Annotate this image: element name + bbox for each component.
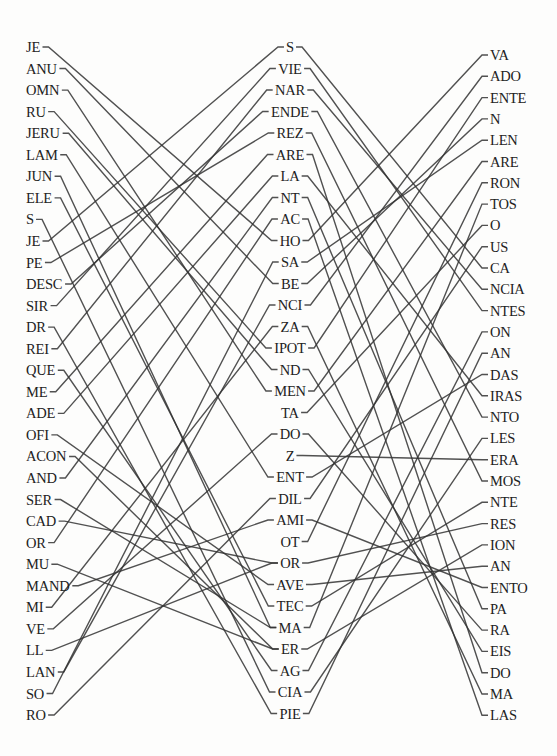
right-syllable-item[interactable]: NCIA [490,281,525,297]
middle-syllable-item[interactable]: IPOT [255,340,325,356]
middle-syllable-item[interactable]: MEN [255,383,325,399]
right-syllable-item[interactable]: ERA [490,452,518,468]
middle-syllable-item[interactable]: ARE [255,147,325,163]
left-syllable-item[interactable]: SIR [26,298,48,314]
right-syllable-item[interactable]: DO [490,665,511,681]
right-syllable-item[interactable]: ENTO [490,580,528,596]
left-syllable-item[interactable]: OMN [26,82,59,98]
left-syllable-item[interactable]: ACON [26,448,66,464]
middle-syllable-item[interactable]: CIA [255,684,325,700]
left-syllable-item[interactable]: MU [26,556,49,572]
left-syllable-item[interactable]: LAM [26,147,58,163]
left-syllable-item[interactable]: JERU [26,125,60,141]
left-syllable-item[interactable]: SO [26,686,44,702]
middle-syllable-item[interactable]: ER [255,641,325,657]
connection-line [51,90,272,349]
middle-syllable-item[interactable]: OR [255,555,325,571]
right-syllable-item[interactable]: EIS [490,643,511,659]
right-syllable-item[interactable]: AN [490,345,511,361]
middle-syllable-item[interactable]: REZ [255,125,325,141]
right-syllable-item[interactable]: NTES [490,303,525,319]
middle-syllable-item[interactable]: HO [255,233,325,249]
right-syllable-item[interactable]: AN [490,558,511,574]
left-syllable-item[interactable]: JE [26,39,40,55]
right-syllable-item[interactable]: ON [490,324,511,340]
middle-syllable-item[interactable]: S [255,39,325,55]
middle-syllable-item[interactable]: TEC [255,598,325,614]
right-syllable-item[interactable]: N [490,111,500,127]
left-syllable-item[interactable]: RU [26,104,46,120]
left-syllable-item[interactable]: CAD [26,513,56,529]
right-syllable-item[interactable]: MA [490,686,513,702]
middle-syllable-item[interactable]: NCI [255,297,325,313]
right-syllable-item[interactable]: RES [490,516,516,532]
middle-syllable-item[interactable]: LA [255,168,325,184]
connection-line [306,502,488,606]
right-syllable-item[interactable]: TOS [490,196,517,212]
right-syllable-item[interactable]: MOS [490,473,521,489]
left-syllable-item[interactable]: DR [26,319,46,335]
middle-syllable-item[interactable]: DO [255,426,325,442]
middle-syllable-item[interactable]: OT [255,534,325,550]
right-syllable-item[interactable]: RA [490,622,510,638]
left-syllable-item[interactable]: S [26,211,34,227]
left-syllable-item[interactable]: JUN [26,168,52,184]
left-syllable-item[interactable]: RO [26,707,46,723]
right-syllable-item[interactable]: ION [490,537,515,553]
right-syllable-item[interactable]: ENTE [490,90,526,106]
left-syllable-item[interactable]: ADE [26,405,55,421]
middle-syllable-item[interactable]: AC [255,211,325,227]
middle-syllable-item[interactable]: NAR [255,82,325,98]
left-syllable-item[interactable]: ME [26,384,47,400]
left-syllable-item[interactable]: ELE [26,190,52,206]
right-syllable-item[interactable]: O [490,217,500,233]
middle-syllable-item[interactable]: MA [255,620,325,636]
connection-line [47,262,279,694]
middle-syllable-item[interactable]: SA [255,254,325,270]
right-syllable-item[interactable]: ARE [490,154,518,170]
right-syllable-item[interactable]: IRAS [490,388,522,404]
middle-syllable-item[interactable]: NT [255,190,325,206]
middle-syllable-item[interactable]: PIE [255,706,325,722]
middle-syllable-item[interactable]: AMI [255,512,325,528]
right-syllable-item[interactable]: NTE [490,494,518,510]
left-syllable-item[interactable]: LAN [26,664,55,680]
right-syllable-item[interactable]: LES [490,430,515,446]
right-syllable-item[interactable]: NTO [490,409,519,425]
middle-syllable-item[interactable]: TA [255,405,325,421]
left-syllable-item[interactable]: AND [26,470,57,486]
middle-syllable-item[interactable]: Z [255,448,325,464]
middle-syllable-item[interactable]: DIL [255,491,325,507]
left-syllable-item[interactable]: PE [26,255,43,271]
middle-syllable-item[interactable]: AG [255,663,325,679]
left-syllable-item[interactable]: MAND [26,578,70,594]
left-syllable-item[interactable]: LL [26,642,43,658]
middle-syllable-item[interactable]: ENT [255,469,325,485]
right-syllable-item[interactable]: CA [490,260,510,276]
right-syllable-item[interactable]: US [490,239,508,255]
right-syllable-item[interactable]: DAS [490,367,518,383]
left-syllable-item[interactable]: ANU [26,61,57,77]
middle-syllable-item[interactable]: AVE [255,577,325,593]
left-syllable-item[interactable]: OR [26,535,46,551]
middle-syllable-item[interactable]: VIE [255,61,325,77]
middle-syllable-item[interactable]: ENDE [255,104,325,120]
left-syllable-item[interactable]: JE [26,233,40,249]
middle-syllable-item[interactable]: ND [255,362,325,378]
middle-syllable-item[interactable]: ZA [255,319,325,335]
left-syllable-item[interactable]: REI [26,341,49,357]
middle-syllable-item[interactable]: BE [255,276,325,292]
left-syllable-item[interactable]: OFI [26,427,49,443]
right-syllable-item[interactable]: LEN [490,132,518,148]
right-syllable-item[interactable]: LAS [490,707,517,723]
right-syllable-item[interactable]: VA [490,47,509,63]
left-syllable-item[interactable]: VE [26,621,45,637]
left-syllable-item[interactable]: MI [26,599,43,615]
left-syllable-item[interactable]: SER [26,492,52,508]
right-syllable-item[interactable]: PA [490,601,507,617]
right-syllable-item[interactable]: ADO [490,68,521,84]
right-syllable-item[interactable]: RON [490,175,520,191]
left-syllable-item[interactable]: DESC [26,276,62,292]
connection-line [302,183,488,542]
left-syllable-item[interactable]: QUE [26,362,55,378]
